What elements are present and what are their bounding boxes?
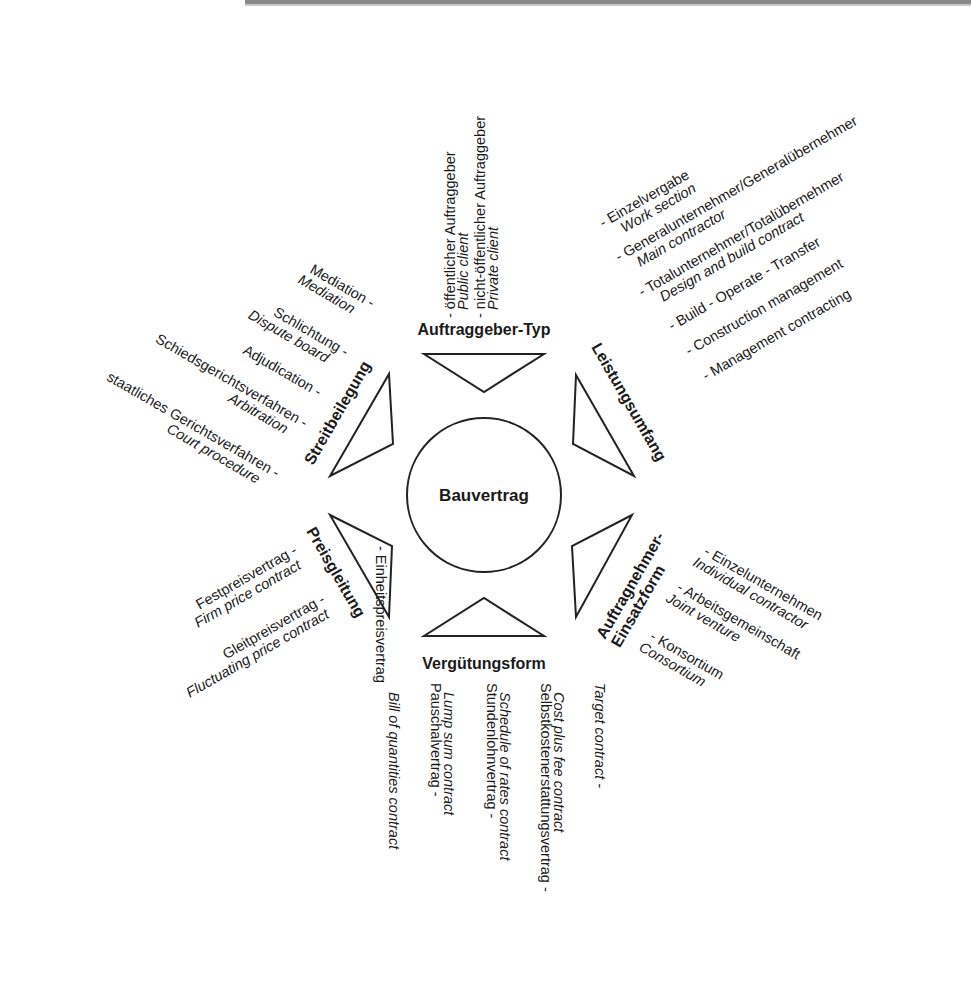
contract-diagram: Bauvertrag Auftraggeber-Typ - öffentlich…: [0, 0, 971, 999]
hub-label: Bauvertrag: [439, 486, 529, 505]
category-label-streitbeilegung: Streitbeilegung: [301, 358, 374, 467]
item-en: Cost plus fee contract: [551, 692, 567, 833]
category-upper-right: Leistungsumfang - Einzelvergabe Work sec…: [588, 112, 867, 464]
item-en: Schedule of rates contract: [497, 692, 513, 861]
item-en: Private client: [485, 226, 501, 310]
item-en: Bill of quantities contract: [386, 692, 402, 850]
triangle-top: [424, 354, 544, 392]
category-bottom: Vergütungsform Einheitspreisvertrag - Bi…: [373, 546, 608, 892]
category-label-leistungsumfang: Leistungsumfang: [588, 340, 669, 464]
category-lower-right: Auftragnehmer- Einsatzform - Einzelunter…: [593, 529, 826, 696]
category-label-auftraggeber-typ: Auftraggeber-Typ: [417, 321, 550, 338]
category-label-verguetungsform: Vergütungsform: [422, 655, 546, 672]
item-en: Public client: [455, 232, 471, 310]
category-top: Auftraggeber-Typ - öffentlicher Auftragg…: [417, 116, 550, 338]
triangle-bottom: [424, 598, 544, 636]
category-upper-left: Streitbeilegung Mediation - Mediation Sc…: [97, 258, 378, 493]
category-lower-left: Preisgleitung Festpreisvertrag - Firm pr…: [176, 524, 369, 701]
item-de: Einheitspreisvertrag -: [373, 546, 389, 683]
item-en: Target contract -: [592, 683, 608, 788]
item-en: Lump sum contract: [441, 692, 457, 816]
